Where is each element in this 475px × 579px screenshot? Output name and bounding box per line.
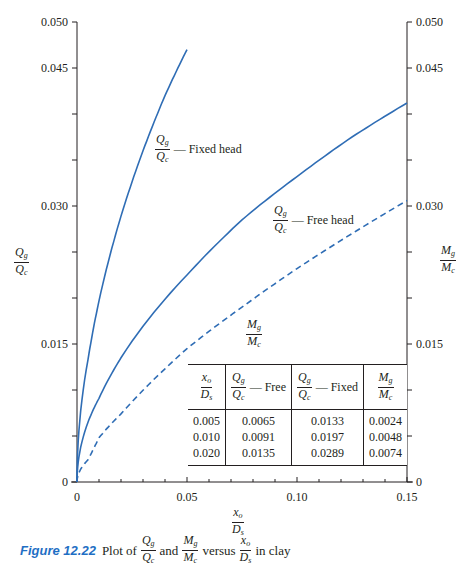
table-cell: 0.0197 bbox=[292, 429, 364, 445]
table-cell: 0.010 bbox=[188, 429, 226, 445]
curve-fixed-head bbox=[77, 50, 187, 482]
y-tick-label-left: 0.030 bbox=[41, 199, 68, 213]
table-cell: 0.0135 bbox=[226, 445, 292, 466]
y-tick-label-right: 0.015 bbox=[416, 337, 443, 351]
y-tick-label-right: 0.030 bbox=[416, 199, 443, 213]
figure-caption: Figure 12.22 Plot of Qg Qc and Mg Mc ver… bbox=[20, 534, 290, 567]
caption-xo-ds: xo Ds bbox=[240, 534, 252, 567]
data-table: xo Ds Qg Qc — Free Qg Qc bbox=[188, 364, 407, 466]
y-axis-label-right: Mg Mc bbox=[440, 244, 456, 277]
table-cell: 0.0065 bbox=[226, 410, 292, 430]
table-row: 0.005 0.0065 0.0133 0.0024 bbox=[188, 410, 407, 430]
table-header-row: xo Ds Qg Qc — Free Qg Qc bbox=[188, 365, 407, 410]
y-tick-label-right: 0.050 bbox=[416, 15, 443, 29]
table-cell: 0.0048 bbox=[364, 429, 408, 445]
caption-mg-mc: Mg Mc bbox=[182, 534, 198, 567]
table-header-qg-qc-fixed: Qg Qc — Fixed bbox=[292, 365, 364, 410]
table-row: 0.010 0.0091 0.0197 0.0048 bbox=[188, 429, 407, 445]
y-axis-label-left: Qg Qc bbox=[14, 246, 29, 279]
table-cell: 0.0091 bbox=[226, 429, 292, 445]
y-tick-label-left: 0.015 bbox=[41, 337, 68, 351]
table-cell: 0.0289 bbox=[292, 445, 364, 466]
y-tick-label-left: 0 bbox=[62, 475, 68, 489]
x-tick-label: 0 bbox=[74, 490, 80, 504]
table-cell: 0.0074 bbox=[364, 445, 408, 466]
annotation-free-head: Qg Qc — Free head bbox=[273, 204, 354, 237]
table-cell: 0.020 bbox=[188, 445, 226, 466]
y-tick-label-right: 0.045 bbox=[416, 61, 443, 75]
y-tick-label-left: 0.045 bbox=[41, 61, 68, 75]
table-row: 0.020 0.0135 0.0289 0.0074 bbox=[188, 445, 407, 466]
chart-plot: 00.0150.0300.0450.05000.0150.0300.0450.0… bbox=[0, 0, 475, 579]
y-tick-label-right: 0 bbox=[416, 475, 422, 489]
x-tick-label: 0.15 bbox=[397, 490, 418, 504]
table-header-qg-qc-free: Qg Qc — Free bbox=[226, 365, 292, 410]
annotation-fixed-head: Qg Qc — Fixed head bbox=[155, 133, 242, 166]
y-tick-label-left: 0.050 bbox=[41, 15, 68, 29]
table-cell: 0.0024 bbox=[364, 410, 408, 430]
figure-number: Figure 12.22 bbox=[20, 543, 96, 558]
table-header-xo-ds: xo Ds bbox=[188, 365, 226, 410]
x-tick-label: 0.05 bbox=[177, 490, 198, 504]
table-cell: 0.0133 bbox=[292, 410, 364, 430]
table-cell: 0.005 bbox=[188, 410, 226, 430]
table-header-mg-mc: Mg Mc bbox=[364, 365, 408, 410]
annotation-moment-ratio: Mg Mc bbox=[246, 318, 262, 351]
caption-qg-qc: Qg Qc bbox=[141, 534, 156, 567]
x-tick-label: 0.10 bbox=[287, 490, 308, 504]
